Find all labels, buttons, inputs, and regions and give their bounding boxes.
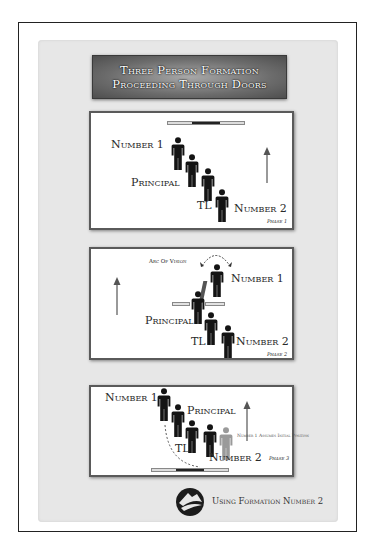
label-arc-of-vision: Arc Of Vision <box>149 258 186 264</box>
phase-label: Phase 1 <box>267 218 287 224</box>
doorway-left-icon <box>172 302 190 306</box>
phase-label: Phase 3 <box>269 455 289 461</box>
label-number-1: Number 1 <box>231 272 284 285</box>
phase-3-panel: Number 1 Principal Number 1 Assumes Init… <box>89 385 294 477</box>
person-icon <box>185 154 199 188</box>
label-number-2: Number 2 <box>234 202 287 215</box>
person-icon <box>201 168 215 202</box>
person-icon <box>221 325 235 359</box>
label-principal: Principal <box>187 404 236 417</box>
direction-arrow-up-icon <box>263 147 271 183</box>
label-number-1: Number 1 <box>105 391 158 404</box>
person-icon <box>171 137 185 171</box>
phase-2-panel: Arc Of Vision Number 1 Principal TL Numb… <box>89 247 294 360</box>
label-number-2: Number 2 <box>209 451 262 464</box>
person-icon <box>215 189 229 223</box>
direction-arrow-up-icon <box>243 401 251 441</box>
phase-label: Phase 2 <box>267 351 287 357</box>
direction-arrow-up-icon <box>113 277 121 315</box>
title-line-2: Proceeding Through Doors <box>112 77 266 91</box>
label-number-2: Number 2 <box>236 335 289 348</box>
label-tl: TL <box>175 442 190 455</box>
title-line-1: Three Person Formation <box>120 63 259 77</box>
footer-caption: Using Formation Number 2 <box>212 496 323 506</box>
label-number-1: Number 1 <box>111 138 164 151</box>
doorway-icon <box>151 468 229 472</box>
title-banner: Three Person Formation Proceeding Throug… <box>92 55 287 99</box>
person-icon <box>210 264 224 298</box>
label-tl: TL <box>197 199 212 212</box>
phase-1-panel: Number 1 Principal TL Number 2 Phase 1 <box>89 111 294 230</box>
label-principal: Principal <box>131 176 180 189</box>
person-icon <box>204 312 218 346</box>
person-icon <box>157 388 171 422</box>
label-principal: Principal <box>145 314 194 327</box>
doorway-icon <box>167 121 245 125</box>
doorway-right-icon <box>205 302 225 306</box>
mountain-logo-icon <box>175 486 205 518</box>
label-tl: TL <box>191 335 206 348</box>
